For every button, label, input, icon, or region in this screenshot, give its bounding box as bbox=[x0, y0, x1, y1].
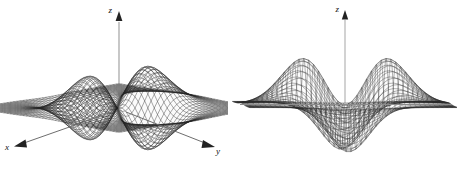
surface-plot-3d: z x y bbox=[0, 0, 228, 193]
surface-plot-profile: z bbox=[228, 0, 457, 193]
axis-label-y: y bbox=[215, 146, 220, 156]
axis-label-z: z bbox=[107, 5, 112, 15]
panel-profile-view: z bbox=[228, 0, 457, 193]
axis-label-x: x bbox=[4, 142, 9, 152]
figure-container: z x y z bbox=[0, 0, 457, 193]
panel-3d-surface: z x y bbox=[0, 0, 228, 193]
axis-label-z: z bbox=[334, 4, 339, 14]
